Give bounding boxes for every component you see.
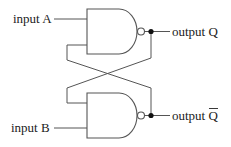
nand-gate-top-body <box>87 9 137 54</box>
inversion-bubble-bottom <box>138 112 145 119</box>
output-qbar-label: output Q <box>172 108 218 123</box>
junction-dot-qbar <box>148 113 153 118</box>
diagram-canvas: input A input B output Q output Q <box>0 0 231 147</box>
input-a-label: input A <box>13 11 52 26</box>
nand-gate-top <box>87 9 145 54</box>
input-b-label: input B <box>11 120 50 135</box>
junction-dot-q <box>148 29 153 34</box>
inversion-bubble-top <box>138 28 145 35</box>
output-qbar-letter: Q <box>208 108 218 123</box>
nand-gate-bottom <box>87 93 145 138</box>
output-qbar-prefix: output <box>172 108 208 123</box>
nand-gate-bottom-body <box>87 93 137 138</box>
output-q-label: output Q <box>172 24 218 39</box>
sr-latch-diagram: input A input B output Q output Q <box>0 0 231 147</box>
